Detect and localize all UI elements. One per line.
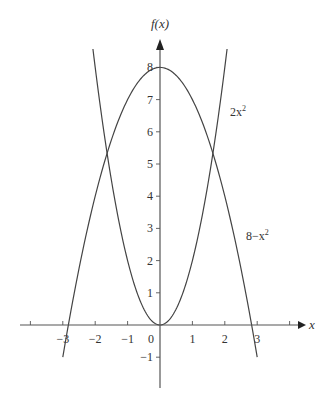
function-plot: −3−2−10123−112345678 f(x) x 2x2 8−x2	[0, 0, 327, 398]
curve-label-2x2-sup: 2	[242, 104, 246, 113]
y-tick-label: 5	[147, 157, 153, 171]
y-tick-label: 6	[147, 125, 153, 139]
curve-label-2x2: 2x2	[230, 104, 246, 119]
x-tick-label: 2	[222, 332, 228, 346]
y-tick-label: 1	[147, 286, 153, 300]
y-tick-label: 4	[147, 189, 153, 203]
x-axis-arrow-icon	[298, 321, 306, 329]
x-tick-label: 1	[189, 332, 195, 346]
x-tick-label: 0	[148, 332, 154, 346]
curve-label-8-minus-x2: 8−x2	[246, 228, 269, 243]
y-tick-label: 7	[147, 93, 153, 107]
x-tick-label: −1	[121, 332, 134, 346]
curve-label-8-minus-x2-sup: 2	[265, 228, 269, 237]
x-axis-label: x	[308, 317, 315, 332]
y-axis-arrow-icon	[156, 39, 164, 50]
y-tick-label: −1	[140, 350, 153, 364]
y-tick-label: 2	[147, 254, 153, 268]
curve-label-8-minus-x2-base: 8−x	[246, 229, 265, 243]
curve-label-2x2-base: 2x	[230, 105, 242, 119]
y-axis-label: f(x)	[151, 16, 169, 31]
x-tick-label: −2	[89, 332, 102, 346]
y-tick-label: 3	[147, 221, 153, 235]
